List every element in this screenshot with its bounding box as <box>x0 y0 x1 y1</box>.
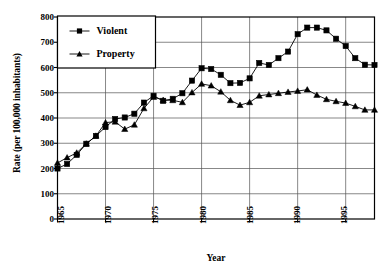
y-tick-label: 600 <box>26 63 54 73</box>
data-point-marker <box>372 62 377 67</box>
chart-legend: ViolentProperty <box>58 16 156 68</box>
data-point-marker <box>209 66 214 71</box>
data-point-marker <box>131 122 137 128</box>
y-tick-label: 200 <box>26 164 54 174</box>
data-point-marker <box>122 115 127 120</box>
legend-box <box>58 16 156 68</box>
data-point-marker <box>218 72 223 77</box>
crime-rate-line-chart: Rate (per 100,000 inhabitants) Year 0 10… <box>0 0 385 272</box>
data-point-marker <box>285 49 290 54</box>
data-point-marker <box>257 60 262 65</box>
y-tick-label: 300 <box>26 138 54 148</box>
data-point-marker <box>54 160 60 166</box>
x-tick-label: 1985 <box>245 206 255 224</box>
x-axis-label: Year <box>57 253 375 263</box>
data-point-marker <box>65 161 70 166</box>
data-point-marker <box>237 80 242 85</box>
data-point-marker <box>323 96 329 102</box>
x-tick-label: 1970 <box>103 206 113 224</box>
data-point-marker <box>324 28 329 33</box>
x-tick-label: 1990 <box>292 206 302 224</box>
data-point-marker <box>247 99 253 105</box>
x-tick-label: 1995 <box>339 206 349 224</box>
data-point-marker <box>295 32 300 37</box>
data-point-marker <box>132 111 137 116</box>
y-axis-tick-labels: 0 100 200 300 400 500 600 700 800 <box>22 0 54 272</box>
data-point-marker <box>353 56 358 61</box>
data-point-marker <box>189 78 194 83</box>
data-point-marker <box>122 126 128 131</box>
data-point-marker <box>343 43 348 48</box>
data-point-marker <box>305 25 310 30</box>
y-tick-label: 700 <box>26 37 54 47</box>
data-point-marker <box>333 36 338 41</box>
data-point-marker <box>141 100 146 105</box>
legend-marker-square <box>77 28 82 33</box>
data-point-marker <box>362 62 367 67</box>
data-point-marker <box>314 25 319 30</box>
legend-label-violent: Violent <box>97 25 128 36</box>
y-tick-label: 0 <box>26 214 54 224</box>
legend-label-property: Property <box>97 48 135 59</box>
x-tick-label: 1965 <box>56 206 66 224</box>
y-axis-label: Rate (per 100,000 inhabitants) <box>12 18 22 208</box>
data-point-marker <box>228 81 233 86</box>
x-tick-label: 1975 <box>150 206 160 224</box>
data-point-marker <box>64 155 70 161</box>
data-point-marker <box>199 66 204 71</box>
data-point-marker <box>180 91 185 96</box>
data-point-marker <box>304 87 310 93</box>
y-tick-label: 500 <box>26 88 54 98</box>
data-point-marker <box>247 76 252 81</box>
data-point-marker <box>55 166 60 171</box>
data-point-marker <box>218 89 224 95</box>
series-property <box>54 81 377 166</box>
y-tick-label: 100 <box>26 189 54 199</box>
data-point-marker <box>198 81 204 87</box>
data-point-marker <box>266 62 271 67</box>
plot-area: ViolentProperty <box>0 0 385 272</box>
x-tick-label: 1980 <box>198 206 208 224</box>
data-point-marker <box>276 56 281 61</box>
y-tick-label: 400 <box>26 113 54 123</box>
y-tick-label: 800 <box>26 12 54 22</box>
